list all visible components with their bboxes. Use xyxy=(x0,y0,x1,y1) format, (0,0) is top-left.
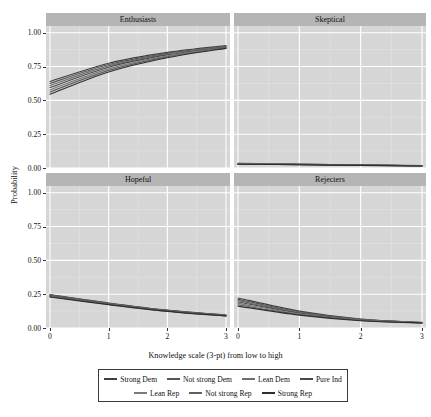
legend-item[interactable]: Lean Dem xyxy=(242,375,290,384)
y-tick-label: 0.75 xyxy=(7,222,41,231)
legend-item[interactable]: Not strong Rep xyxy=(189,389,251,398)
x-axis-title: Knowledge scale (3-pt) from low to high xyxy=(0,351,431,360)
facet-strip: Hopeful xyxy=(46,173,230,186)
y-tick-label: 0.25 xyxy=(7,290,41,299)
legend-label: Not strong Rep xyxy=(205,389,251,398)
legend-label: Lean Dem xyxy=(258,375,290,384)
facet-panel-enthusiasts: Enthusiasts xyxy=(46,13,230,168)
chart-figure: Probability 0.000.250.500.751.000.000.25… xyxy=(0,0,431,417)
facet-plot-area xyxy=(46,186,230,328)
legend-key-swatch xyxy=(242,376,255,383)
x-tick-label: 3 xyxy=(415,332,429,341)
legend-item[interactable]: Pure Ind xyxy=(300,375,342,384)
y-tick-label: 1.00 xyxy=(7,188,41,197)
x-tick-label: 0 xyxy=(43,332,57,341)
legend-key-swatch xyxy=(134,390,147,397)
x-tick-mark xyxy=(299,328,300,331)
y-tick-label: 0.00 xyxy=(7,164,41,173)
x-tick-mark xyxy=(238,328,239,331)
legend-label: Lean Rep xyxy=(150,389,179,398)
facet-plot-area xyxy=(234,26,426,168)
x-tick-label: 0 xyxy=(231,332,245,341)
legend-row: Strong DemNot strong DemLean DemPure Ind xyxy=(99,372,347,386)
y-tick-mark xyxy=(43,328,46,329)
legend-label: Strong Dem xyxy=(120,375,157,384)
legend: Strong DemNot strong DemLean DemPure Ind… xyxy=(98,369,348,402)
x-tick-mark xyxy=(361,328,362,331)
legend-label: Not strong Dem xyxy=(183,375,232,384)
legend-key-swatch xyxy=(104,376,117,383)
facet-strip: Skeptical xyxy=(234,13,426,26)
facet-strip-label: Skeptical xyxy=(234,13,426,26)
x-tick-label: 2 xyxy=(354,332,368,341)
x-tick-label: 1 xyxy=(292,332,306,341)
facet-panel-skeptical: Skeptical xyxy=(234,13,426,168)
legend-label: Pure Ind xyxy=(316,375,342,384)
facet-plot-area xyxy=(46,26,230,168)
x-tick-mark xyxy=(50,328,51,331)
y-tick-label: 1.00 xyxy=(7,28,41,37)
x-tick-mark xyxy=(167,328,168,331)
x-tick-label: 2 xyxy=(160,332,174,341)
y-tick-label: 0.50 xyxy=(7,256,41,265)
x-tick-mark xyxy=(226,328,227,331)
y-tick-label: 0.50 xyxy=(7,96,41,105)
legend-item[interactable]: Not strong Dem xyxy=(167,375,232,384)
legend-item[interactable]: Lean Rep xyxy=(134,389,179,398)
legend-item[interactable]: Strong Dem xyxy=(104,375,157,384)
legend-row: Lean RepNot strong RepStrong Rep xyxy=(99,386,347,400)
facet-strip: Enthusiasts xyxy=(46,13,230,26)
legend-label: Strong Rep xyxy=(278,389,312,398)
facet-panel-rejecters: Rejecters xyxy=(234,173,426,328)
y-tick-label: 0.75 xyxy=(7,62,41,71)
y-tick-label: 0.25 xyxy=(7,130,41,139)
legend-key-swatch xyxy=(189,390,202,397)
y-axis-title: Probability xyxy=(9,140,19,230)
facet-strip-label: Rejecters xyxy=(234,173,426,186)
x-tick-mark xyxy=(109,328,110,331)
legend-key-swatch xyxy=(262,390,275,397)
x-tick-mark xyxy=(422,328,423,331)
x-tick-label: 1 xyxy=(102,332,116,341)
y-tick-label: 0.00 xyxy=(7,324,41,333)
legend-key-swatch xyxy=(167,376,180,383)
legend-item[interactable]: Strong Rep xyxy=(262,389,312,398)
y-tick-mark xyxy=(43,168,46,169)
legend-key-swatch xyxy=(300,376,313,383)
facet-strip-label: Hopeful xyxy=(46,173,230,186)
facet-strip: Rejecters xyxy=(234,173,426,186)
facet-strip-label: Enthusiasts xyxy=(46,13,230,26)
facet-plot-area xyxy=(234,186,426,328)
facet-panel-hopeful: Hopeful xyxy=(46,173,230,328)
